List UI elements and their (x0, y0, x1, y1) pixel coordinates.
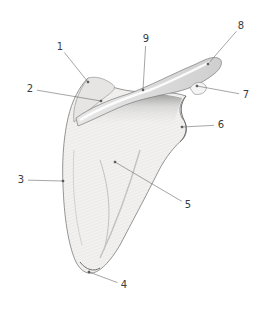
label-9: 9 (143, 34, 149, 44)
label-3: 3 (18, 175, 24, 185)
label-2: 2 (27, 84, 33, 94)
leader-dot-4 (88, 271, 90, 273)
leader-line-6 (182, 125, 214, 127)
scapula-diagram: 1 2 3 4 5 6 7 8 9 (0, 0, 266, 320)
leader-line-2 (37, 90, 101, 101)
leader-dot-7 (196, 85, 198, 87)
leader-line-8 (208, 31, 236, 64)
label-5: 5 (185, 200, 191, 210)
leader-dot-8 (207, 63, 209, 65)
leader-line-4 (89, 272, 117, 283)
leader-dot-1 (87, 81, 89, 83)
leader-dot-3 (62, 180, 64, 182)
label-6: 6 (218, 120, 224, 130)
leader-line-5 (115, 162, 182, 201)
leader-dot-9 (142, 89, 144, 91)
leader-dot-6 (181, 126, 183, 128)
leader-dot-2 (100, 100, 102, 102)
leader-dot-5 (114, 161, 116, 163)
label-1: 1 (57, 42, 63, 52)
leader-line-9 (143, 46, 146, 90)
leader-line-3 (28, 180, 63, 181)
label-4: 4 (121, 280, 127, 290)
label-7: 7 (243, 90, 249, 100)
leader-lines (0, 0, 266, 320)
leader-line-1 (64, 52, 88, 82)
leader-line-7 (197, 86, 239, 94)
label-8: 8 (238, 21, 244, 31)
